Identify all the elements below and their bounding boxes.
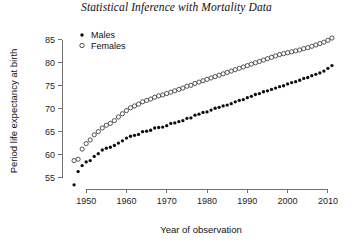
point-females	[149, 97, 153, 101]
x-axis-title: Year of observation	[160, 224, 242, 235]
point-females	[277, 52, 281, 56]
point-females	[104, 123, 108, 127]
point-males	[246, 96, 249, 99]
point-males	[189, 116, 192, 119]
y-tick-label-80: 80	[45, 58, 55, 68]
point-females	[181, 86, 185, 90]
point-males	[173, 121, 176, 124]
point-females	[261, 58, 265, 62]
point-females	[185, 84, 189, 88]
point-females	[245, 63, 249, 67]
point-males	[113, 144, 116, 147]
point-females	[249, 62, 253, 66]
point-males	[230, 102, 233, 105]
point-females	[136, 102, 140, 106]
point-males	[254, 93, 257, 96]
legend-label-females: Females	[91, 41, 126, 51]
point-males	[314, 73, 317, 76]
point-males	[93, 155, 96, 158]
x-tick-label-1990: 1990	[237, 196, 257, 206]
point-females	[326, 38, 330, 42]
point-females	[161, 93, 165, 97]
point-males	[165, 124, 168, 127]
point-females	[233, 68, 237, 72]
scatter-plot: 5560657075808519501960197019801990200020…	[0, 0, 353, 246]
point-females	[310, 44, 314, 48]
point-males	[105, 147, 108, 150]
point-males	[262, 90, 265, 93]
point-females	[237, 66, 241, 70]
point-males	[294, 80, 297, 83]
point-females	[205, 77, 209, 81]
point-males	[76, 170, 79, 173]
point-females	[217, 73, 221, 77]
point-males	[270, 88, 273, 91]
point-females	[72, 158, 76, 162]
point-females	[201, 79, 205, 83]
y-axis-title: Period life expectancy at birth	[8, 49, 19, 174]
y-tick-label-60: 60	[45, 150, 55, 160]
point-females	[318, 41, 322, 45]
point-males	[193, 113, 196, 116]
point-females	[290, 50, 294, 54]
point-females	[76, 157, 80, 161]
point-females	[302, 47, 306, 51]
point-males	[209, 108, 212, 111]
point-males	[197, 113, 200, 116]
point-females	[128, 106, 132, 110]
point-females	[197, 80, 201, 84]
x-tick-label-1980: 1980	[197, 196, 217, 206]
point-females	[88, 138, 92, 142]
point-females	[177, 87, 181, 91]
point-females	[209, 76, 213, 80]
point-females	[322, 40, 326, 44]
point-males	[318, 71, 321, 74]
point-males	[278, 85, 281, 88]
point-females	[100, 126, 104, 130]
point-females	[265, 57, 269, 61]
chart-figure: Statistical Inference with Mortality Dat…	[0, 0, 353, 246]
point-males	[161, 125, 164, 128]
point-females	[221, 72, 225, 76]
point-males	[109, 146, 112, 149]
point-females	[241, 65, 245, 69]
point-females	[193, 81, 197, 85]
point-males	[326, 67, 329, 70]
point-males	[80, 164, 83, 167]
point-males	[242, 98, 245, 101]
point-males	[153, 126, 156, 129]
point-females	[112, 119, 116, 123]
point-males	[306, 76, 309, 79]
point-males	[149, 129, 152, 132]
point-males	[117, 141, 120, 144]
data-points	[72, 36, 334, 187]
point-females	[120, 112, 124, 116]
point-males	[217, 106, 220, 109]
point-females	[281, 52, 285, 56]
point-females	[306, 46, 310, 50]
point-males	[72, 183, 75, 186]
point-males	[137, 133, 140, 136]
point-males	[258, 92, 261, 95]
legend-marker-males	[80, 33, 83, 36]
chart-legend[interactable]: MalesFemales	[80, 30, 126, 51]
point-males	[169, 122, 172, 125]
point-males	[282, 84, 285, 87]
point-females	[132, 104, 136, 108]
point-females	[173, 89, 177, 93]
point-males	[234, 100, 237, 103]
point-females	[145, 98, 149, 102]
legend-label-males: Males	[91, 30, 116, 40]
y-tick-label-65: 65	[45, 127, 55, 137]
legend-marker-females	[80, 43, 84, 47]
point-males	[177, 120, 180, 123]
point-males	[330, 64, 333, 67]
point-males	[89, 159, 92, 162]
point-females	[330, 36, 334, 40]
point-males	[97, 152, 100, 155]
x-tick-label-2000: 2000	[278, 196, 298, 206]
x-tick-label-1970: 1970	[157, 196, 177, 206]
axes: 5560657075808519501960197019801990200020…	[45, 35, 338, 205]
point-females	[314, 43, 318, 47]
x-tick-label-2010: 2010	[318, 196, 338, 206]
